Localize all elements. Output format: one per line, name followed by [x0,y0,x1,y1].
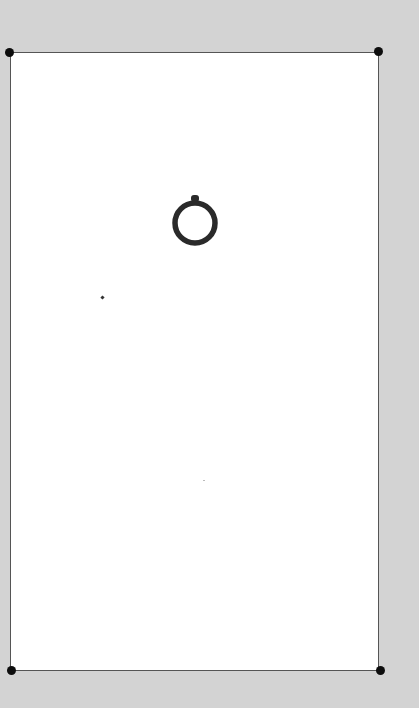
corner-dot-bottom-right [376,666,385,675]
corner-dot-bottom-left [7,666,16,675]
scan-speck [203,480,205,481]
corner-dot-top-left [5,48,14,57]
page-card [10,52,379,671]
corner-dot-top-right [374,47,383,56]
ring-icon [169,191,221,247]
